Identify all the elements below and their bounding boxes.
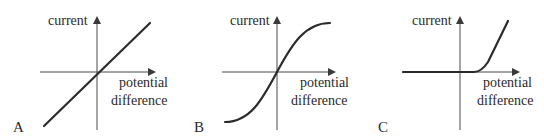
panel-label: B xyxy=(194,119,204,135)
x-axis-label-line2: difference xyxy=(477,93,533,108)
panel-label: A xyxy=(13,119,24,135)
iv-characteristics-diagram: current potential difference A current p… xyxy=(0,0,544,138)
y-axis-label: current xyxy=(230,13,270,28)
x-axis-label-line1: potential xyxy=(483,75,532,90)
x-axis-label-line1: potential xyxy=(300,75,349,90)
y-axis-label: current xyxy=(412,13,452,28)
panel-b: current potential difference B xyxy=(194,13,349,135)
y-axis-label: current xyxy=(48,13,88,28)
iv-curve-diode xyxy=(403,21,508,72)
x-axis-label-line2: difference xyxy=(111,93,167,108)
x-axis-label-line2: difference xyxy=(291,93,347,108)
panel-c: current potential difference C xyxy=(378,13,533,135)
x-axis-label-line1: potential xyxy=(119,75,168,90)
panel-a: current potential difference A xyxy=(13,13,168,135)
panel-label: C xyxy=(378,119,388,135)
